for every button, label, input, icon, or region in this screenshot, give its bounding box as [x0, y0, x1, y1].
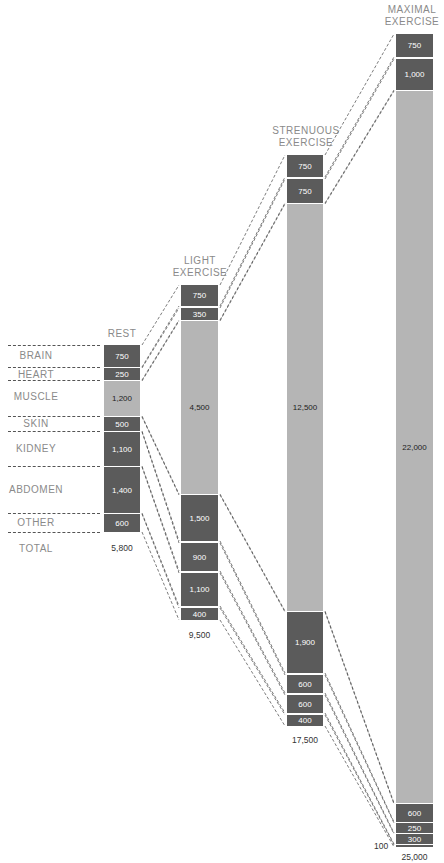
- bar-segment-muscle: 1,200: [104, 381, 140, 416]
- bar-segment-muscle: 12,500: [287, 204, 323, 611]
- column-total: 5,800: [98, 543, 146, 553]
- rest-title: REST: [100, 328, 144, 340]
- blood-flow-diagram: REST LIGHT EXERCISE STRENUOUS EXERCISE M…: [0, 0, 444, 863]
- total-label: TOTAL: [8, 543, 64, 554]
- bar-segment-skin: 600: [396, 804, 433, 822]
- bar-segment-other: 400: [181, 608, 218, 620]
- organ-label-brain: BRAIN: [8, 350, 64, 361]
- bar-segment-heart: 350: [181, 308, 218, 320]
- organ-divider: [8, 380, 100, 381]
- column-total: 17,500: [281, 735, 329, 745]
- bar-segment-other: 400: [287, 715, 323, 726]
- organ-label-muscle: MUSCLE: [8, 391, 64, 402]
- organ-divider: [8, 532, 100, 533]
- strenuous-exercise-title: STRENUOUS EXERCISE: [270, 125, 342, 149]
- organ-divider: [8, 367, 100, 368]
- organ-label-abdomen: ABDOMEN: [8, 484, 64, 495]
- bar-segment-other: 600: [104, 514, 140, 532]
- organ-divider: [8, 513, 100, 514]
- organ-label-other: OTHER: [8, 517, 64, 528]
- bar-segment-kidney: 600: [287, 675, 323, 693]
- bar-segment-brain: 750: [287, 155, 323, 177]
- other-value-label: 100: [374, 841, 388, 851]
- organ-label-kidney: KIDNEY: [8, 443, 64, 454]
- column-total: 25,000: [390, 852, 439, 862]
- bar-segment-muscle: 4,500: [181, 321, 218, 494]
- bar-segment-heart: 750: [287, 179, 323, 203]
- bar-segment-other: [396, 845, 433, 847]
- organ-label-heart: HEART: [8, 369, 64, 380]
- bar-segment-brain: 750: [104, 345, 140, 367]
- bar-segment-kidney: 1,100: [104, 432, 140, 466]
- bar-segment-abdomen: 600: [287, 695, 323, 713]
- bar-segment-kidney: 900: [181, 543, 218, 571]
- column-total: 9,500: [175, 630, 224, 640]
- bar-segment-skin: 1,500: [181, 495, 218, 541]
- organ-divider: [8, 466, 100, 467]
- bar-segment-heart: 1,000: [396, 59, 433, 90]
- bar-segment-muscle: 22,000: [396, 91, 433, 803]
- organ-label-skin: SKIN: [8, 418, 64, 429]
- organ-divider: [8, 416, 100, 417]
- bar-segment-abdomen: 1,400: [104, 467, 140, 513]
- bar-segment-abdomen: 300: [396, 834, 433, 844]
- bar-segment-skin: 500: [104, 417, 140, 431]
- bar-segment-kidney: 250: [396, 823, 433, 833]
- organ-divider: [8, 431, 100, 432]
- bar-segment-heart: 250: [104, 368, 140, 380]
- organ-divider: [8, 345, 100, 346]
- bar-segment-brain: 750: [181, 285, 218, 306]
- bar-segment-skin: 1,900: [287, 612, 323, 673]
- light-exercise-title: LIGHT EXERCISE: [170, 255, 230, 279]
- bar-segment-brain: 750: [396, 34, 433, 57]
- maximal-exercise-title: MAXIMAL EXERCISE: [380, 4, 444, 28]
- bar-segment-abdomen: 1,100: [181, 573, 218, 606]
